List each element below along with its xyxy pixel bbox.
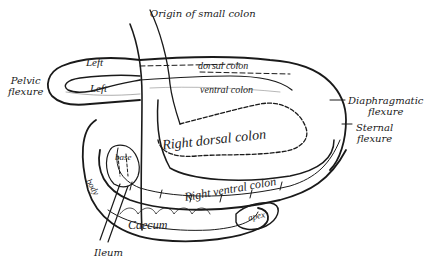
label-caecum-base: base — [115, 152, 132, 162]
label-pelvic-flexure-line1: Pelvic — [8, 75, 43, 86]
label-left-dorsal-colon: dorsal colon — [198, 60, 248, 71]
label-diaphragmatic-flexure-line1: Diaphragmatic — [348, 95, 423, 106]
label-sternal-flexure-line2: flexure — [356, 133, 393, 144]
label-sternal-flexure-line1: Sternal — [356, 122, 393, 133]
colon-diagram: Origin of small colon Pelvic flexure Dia… — [0, 0, 427, 263]
label-left-dorsal-left: Left — [86, 56, 103, 68]
label-origin-small-colon: Origin of small colon — [150, 8, 256, 19]
label-pelvic-flexure-line2: flexure — [8, 86, 43, 97]
label-left-ventral-colon: ventral colon — [200, 84, 253, 95]
label-left-ventral-left: Left — [90, 82, 107, 94]
label-sternal-flexure: Sternal flexure — [356, 122, 393, 144]
label-caecum: Caecum — [128, 218, 167, 233]
label-pelvic-flexure: Pelvic flexure — [8, 75, 43, 97]
label-ileum: Ileum — [94, 247, 123, 258]
label-diaphragmatic-flexure-line2: flexure — [348, 106, 423, 117]
label-diaphragmatic-flexure: Diaphragmatic flexure — [348, 95, 423, 117]
